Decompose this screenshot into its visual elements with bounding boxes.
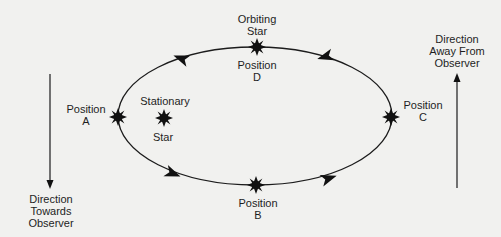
position-d-label: Position D xyxy=(229,59,285,83)
position-c-label: Position C xyxy=(398,99,448,123)
starburst-icon-position-b xyxy=(247,176,265,194)
orbiting-star-label: Orbiting Star xyxy=(229,13,285,37)
starburst-icon-position-d xyxy=(248,38,266,56)
binary-star-diagram: Orbiting Star Position D Position A Stat… xyxy=(0,0,501,237)
starburst-icon-position-a xyxy=(109,108,127,126)
position-b-label: Position B xyxy=(230,197,286,221)
stationary-star-label-top: Stationary xyxy=(130,95,200,107)
arrowhead-icon xyxy=(171,50,190,67)
stationary-star-label-bottom: Star xyxy=(140,131,186,143)
arrow-down-icon xyxy=(47,74,54,189)
direction-towards-label: Direction Towards Observer xyxy=(18,193,84,229)
arrowhead-icon xyxy=(316,49,335,65)
starburst-icon-stationary-star xyxy=(155,109,173,127)
direction-away-label: Direction Away From Observer xyxy=(422,33,492,69)
arrow-up-icon xyxy=(454,73,461,188)
arrowhead-icon xyxy=(320,170,339,186)
position-a-label: Position A xyxy=(62,103,110,127)
